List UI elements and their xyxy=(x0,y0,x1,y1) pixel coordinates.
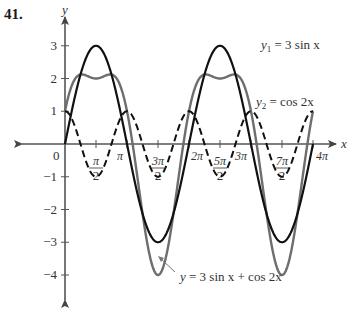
x-tick-label: 5π xyxy=(214,154,227,168)
x-tick-label: π xyxy=(93,154,100,168)
y-axis-label: y xyxy=(60,2,68,17)
y-tick-label: −1 xyxy=(43,169,57,184)
x-tick-label: 7π xyxy=(276,154,289,168)
y1-label: y1 = 3 sin x xyxy=(259,37,320,54)
chart: x y 0 π2π3π22π5π23π7π24π321−1−2−3−4 y1 =… xyxy=(0,0,364,317)
x-tick-label: π xyxy=(117,149,124,163)
x-tick-label: 2π xyxy=(191,149,204,163)
x-tick-label: 4π xyxy=(316,149,329,163)
y-tick-label: 3 xyxy=(51,38,58,53)
origin-label: 0 xyxy=(53,148,60,163)
x-axis-label: x xyxy=(340,136,347,151)
x-tick-label: 3π xyxy=(151,154,165,168)
y-tick-label: −4 xyxy=(43,267,57,282)
y-tick-label: 2 xyxy=(51,71,58,86)
y-tick-label: −2 xyxy=(43,202,57,217)
y2-label: y2 = cos 2x xyxy=(254,94,314,111)
y-tick-label: −3 xyxy=(43,234,57,249)
sum-label: y = 3 sin x + cos 2x xyxy=(178,269,282,284)
x-tick-label: 3π xyxy=(234,149,248,163)
y-tick-label: 1 xyxy=(51,103,58,118)
